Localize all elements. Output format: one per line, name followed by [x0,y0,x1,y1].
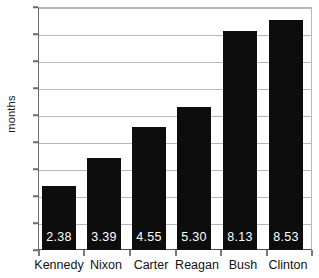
x-tick-label: Reagan [175,258,219,272]
x-tick-label: Bush [229,258,258,272]
bar-value-label: 4.55 [132,230,166,244]
x-tick-mark [129,250,131,256]
x-tick-mark [266,250,268,256]
bar-value-label: 8.13 [223,230,257,244]
y-axis-title: months [5,79,17,149]
x-tick-mark [175,250,177,256]
x-tick-label: Nixon [90,258,122,272]
x-tick-mark [220,250,222,256]
bar-value-label: 5.30 [177,230,211,244]
x-tick-label: Kennedy [34,258,83,272]
bar: 8.13 [223,31,257,250]
x-tick-label: Clinton [269,258,308,272]
x-tick-mark [38,250,40,256]
bar-value-label: 2.38 [42,230,76,244]
bar-value-label: 8.53 [269,230,303,244]
x-tick-label: Carter [134,258,169,272]
x-tick-mark [83,250,85,256]
bar: 8.53 [269,20,303,250]
bar-value-label: 3.39 [87,230,121,244]
bar: 4.55 [132,127,166,250]
bar: 2.38 [42,186,76,250]
bar: 5.30 [177,107,211,250]
bars-layer: 2.38 3.39 4.55 5.30 8.13 8.53 [38,7,312,250]
bar: 3.39 [87,158,121,250]
x-tick-mark [311,250,313,256]
bar-chart: months 9 8 7 6 5 4 3 2 1 0 2.38 3.39 4.5 [0,0,319,278]
